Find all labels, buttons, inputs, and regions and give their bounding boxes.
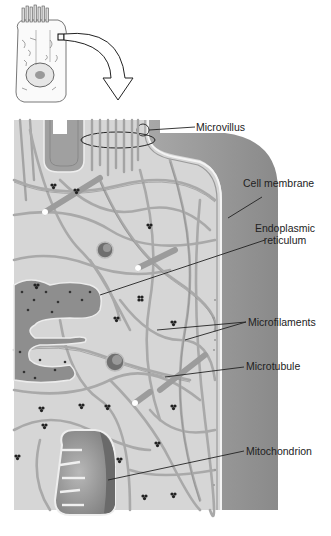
cell-section: [14, 120, 278, 516]
label-er-line1: Endoplasmic: [254, 222, 316, 234]
label-mitochondrion: Mitochondrion: [246, 445, 312, 457]
microvillus-shape: [44, 120, 84, 172]
label-microvillus: Microvillus: [196, 121, 245, 133]
zoom-arrow-icon: [64, 33, 133, 100]
label-microfilaments: Microfilaments: [248, 316, 316, 328]
label-endoplasmic-reticulum: Endoplasmic reticulum: [254, 222, 316, 246]
label-er-line2: reticulum: [254, 234, 316, 246]
label-microtubule: Microtubule: [246, 360, 300, 372]
mitochondrion-shape: [55, 430, 115, 515]
overview-microvilli: [22, 5, 49, 22]
overview-cell: [16, 5, 133, 102]
label-cell-membrane: Cell membrane: [243, 177, 314, 189]
